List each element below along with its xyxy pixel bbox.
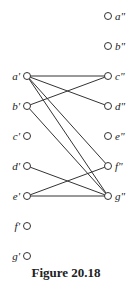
node-a2 — [105, 13, 112, 20]
bipartite-graph: a'b'c'd'e'f'g'a"b"c"d"e"f"g" Figure 20.1… — [0, 0, 132, 282]
node-e1 — [24, 193, 31, 200]
node-label-b1: b' — [12, 100, 21, 112]
node-g1 — [24, 253, 31, 260]
figure-caption: Figure 20.18 — [31, 265, 101, 280]
edge-a1-f2 — [27, 76, 108, 166]
nodes: a'b'c'd'e'f'g'a"b"c"d"e"f"g" — [12, 10, 125, 262]
node-c2 — [105, 73, 112, 80]
node-e2 — [105, 133, 112, 140]
node-label-a2: a" — [115, 10, 126, 22]
node-label-d1: d' — [12, 160, 21, 172]
node-label-e2: e" — [115, 130, 125, 142]
node-label-g2: g" — [115, 190, 126, 202]
node-g2 — [105, 193, 112, 200]
node-c1 — [24, 133, 31, 140]
node-label-c1: c' — [13, 130, 21, 142]
node-label-g1: g' — [12, 250, 21, 262]
node-label-a1: a' — [12, 70, 21, 82]
node-a1 — [24, 73, 31, 80]
node-d2 — [105, 103, 112, 110]
node-label-d2: d" — [115, 100, 126, 112]
node-label-f2: f" — [115, 160, 123, 172]
node-label-e1: e' — [13, 190, 21, 202]
node-label-c2: c" — [115, 70, 125, 82]
node-f1 — [24, 223, 31, 230]
node-label-f1: f' — [15, 220, 21, 232]
node-b2 — [105, 43, 112, 50]
node-label-b2: b" — [115, 40, 126, 52]
node-d1 — [24, 163, 31, 170]
edge-b1-g2 — [27, 106, 108, 196]
edges — [27, 76, 108, 196]
node-b1 — [24, 103, 31, 110]
node-f2 — [105, 163, 112, 170]
edge-a1-g2 — [27, 76, 108, 196]
